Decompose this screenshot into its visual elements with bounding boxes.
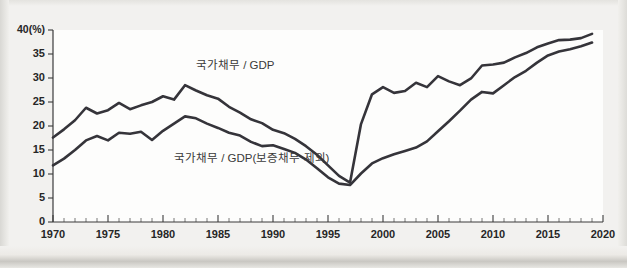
y-tick-label-35: 35 (33, 47, 45, 59)
series-annotation-1: 국가채무 / GDP(보증채무 제외) (174, 152, 330, 164)
x-tick-label-1985: 1985 (206, 228, 230, 240)
y-tick-label-5: 5 (39, 191, 45, 203)
x-tick-label-1970: 1970 (41, 228, 65, 240)
x-tick-label-1980: 1980 (151, 228, 175, 240)
y-axis-tick-labels: 0510152025303540(%) (17, 23, 45, 227)
chart-figure: 0510152025303540(%) 19701975198019851990… (0, 0, 627, 268)
y-tick-label-15: 15 (33, 143, 45, 155)
x-tick-label-2000: 2000 (371, 228, 395, 240)
x-tick-label-1995: 1995 (316, 228, 340, 240)
series-annotation-0: 국가채무 / GDP (196, 59, 275, 71)
y-axis-ticks (48, 30, 53, 222)
x-tick-label-2005: 2005 (426, 228, 450, 240)
y-tick-label-25: 25 (33, 95, 45, 107)
x-tick-label-1975: 1975 (96, 228, 120, 240)
y-tick-label-40: 40(%) (17, 23, 45, 35)
y-tick-label-30: 30 (33, 71, 45, 83)
x-axis-tick-labels: 1970197519801985199019952000200520102015… (41, 228, 615, 240)
y-tick-label-0: 0 (39, 215, 45, 227)
x-tick-label-1990: 1990 (261, 228, 285, 240)
x-tick-label-2015: 2015 (536, 228, 560, 240)
y-tick-label-20: 20 (33, 119, 45, 131)
x-tick-label-2020: 2020 (591, 228, 615, 240)
y-tick-label-10: 10 (33, 167, 45, 179)
x-axis-major-ticks (53, 215, 603, 222)
x-tick-label-2010: 2010 (481, 228, 505, 240)
series-annotations: 국가채무 / GDP국가채무 / GDP(보증채무 제외) (174, 59, 330, 164)
line-chart: 0510152025303540(%) 19701975198019851990… (0, 0, 627, 268)
